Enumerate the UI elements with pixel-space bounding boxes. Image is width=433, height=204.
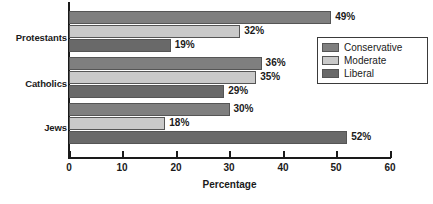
bar-value-protestants-conservative: 49% (335, 12, 355, 22)
legend-item-moderate[interactable]: Moderate (322, 54, 423, 67)
legend-item-conservative[interactable]: Conservative (322, 41, 423, 54)
legend-label-conservative: Conservative (344, 43, 402, 53)
bar-value-protestants-liberal: 19% (175, 40, 195, 50)
legend-swatch-moderate (322, 56, 339, 65)
legend-swatch-conservative (322, 43, 339, 52)
x-tick-label-20: 20 (170, 163, 181, 173)
legend-label-moderate: Moderate (344, 56, 386, 66)
bar-jews-liberal[interactable] (69, 131, 347, 144)
bar-protestants-moderate[interactable] (69, 25, 240, 38)
bar-jews-moderate[interactable] (69, 117, 165, 130)
x-axis-title: Percentage (69, 180, 390, 190)
bar-jews-conservative[interactable] (69, 103, 230, 116)
legend-swatch-liberal (322, 69, 339, 78)
x-tick-label-60: 60 (384, 163, 395, 173)
bar-protestants-liberal[interactable] (69, 39, 171, 52)
bar-value-jews-moderate: 18% (169, 118, 189, 128)
bar-chart: Protestants Catholics Jews 0 10 20 30 40… (0, 0, 433, 204)
x-tick-label-10: 10 (116, 163, 127, 173)
x-tick-40 (283, 151, 285, 158)
x-tick-50 (336, 151, 338, 158)
x-tick-label-30: 30 (223, 163, 234, 173)
bar-value-catholics-conservative: 36% (266, 58, 286, 68)
chart-legend: Conservative Moderate Liberal (317, 37, 428, 84)
bar-value-catholics-liberal: 29% (228, 86, 248, 96)
x-tick-60 (390, 151, 392, 158)
bar-catholics-moderate[interactable] (69, 71, 256, 84)
bar-catholics-conservative[interactable] (69, 57, 262, 70)
bar-value-jews-conservative: 30% (234, 104, 254, 114)
bar-protestants-conservative[interactable] (69, 11, 331, 24)
x-tick-10 (122, 151, 124, 158)
bar-value-catholics-moderate: 35% (260, 72, 280, 82)
category-label-protestants: Protestants (16, 33, 67, 43)
x-tick-label-50: 50 (330, 163, 341, 173)
x-tick-label-0: 0 (66, 163, 72, 173)
bar-value-jews-liberal: 52% (351, 132, 371, 142)
bar-value-protestants-moderate: 32% (244, 26, 264, 36)
bar-catholics-liberal[interactable] (69, 85, 224, 98)
legend-item-liberal[interactable]: Liberal (322, 67, 423, 80)
x-tick-0 (69, 151, 71, 158)
x-tick-label-40: 40 (277, 163, 288, 173)
category-label-jews: Jews (44, 123, 67, 133)
legend-label-liberal: Liberal (344, 69, 374, 79)
x-tick-20 (176, 151, 178, 158)
category-label-catholics: Catholics (25, 79, 67, 89)
x-tick-30 (229, 151, 231, 158)
